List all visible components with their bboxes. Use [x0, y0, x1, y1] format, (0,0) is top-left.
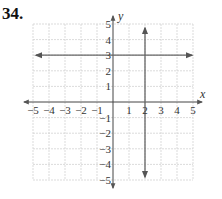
svg-text:5: 5 [190, 104, 196, 116]
svg-text:4: 4 [106, 34, 112, 46]
svg-text:3: 3 [106, 49, 112, 61]
x-tick-labels: −5 −4 −3 −2 −1 1 2 3 4 5 [27, 104, 196, 116]
coordinate-plane: y x −5 −4 −3 −2 −1 1 2 3 4 5 5 4 3 2 1 −… [0, 0, 222, 199]
svg-text:2: 2 [106, 65, 112, 77]
svg-text:4: 4 [174, 104, 180, 116]
svg-text:−3: −3 [59, 104, 71, 116]
svg-text:1: 1 [126, 104, 132, 116]
svg-text:3: 3 [158, 104, 164, 116]
svg-text:−3: −3 [99, 143, 111, 155]
svg-text:−2: −2 [75, 104, 87, 116]
svg-text:−1: −1 [99, 112, 111, 124]
svg-text:2: 2 [142, 104, 148, 116]
svg-text:−2: −2 [99, 127, 111, 139]
svg-text:1: 1 [106, 80, 112, 92]
svg-text:−4: −4 [43, 104, 55, 116]
svg-text:−4: −4 [99, 158, 111, 170]
svg-text:5: 5 [106, 18, 112, 30]
x-axis-label: x [199, 87, 206, 101]
svg-text:−5: −5 [27, 104, 39, 116]
y-axis-label: y [117, 9, 124, 23]
svg-text:−5: −5 [99, 174, 111, 186]
